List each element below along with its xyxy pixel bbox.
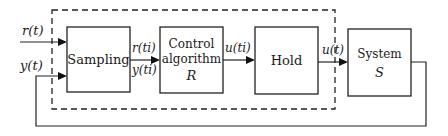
- hold-block: Hold: [255, 27, 318, 94]
- discrete-control-arrowhead: [246, 56, 255, 64]
- sampled-output-label: y(ti): [131, 63, 157, 77]
- continuous-control-arrowhead: [339, 58, 348, 66]
- system-block: System S: [348, 29, 411, 96]
- feedback-arrowhead: [58, 72, 67, 80]
- system-label-symbol: S: [375, 65, 384, 80]
- sampled-reference-label: r(ti): [132, 41, 156, 55]
- block-diagram: Sampling Control algorithm R Hold System…: [0, 0, 448, 136]
- control-label-symbol: R: [186, 68, 197, 83]
- sampling-label: Sampling: [67, 52, 129, 67]
- output-input-label: y(t): [19, 58, 43, 73]
- system-label-line1: System: [357, 47, 402, 61]
- reference-arrowhead: [58, 38, 67, 46]
- hold-label: Hold: [271, 53, 303, 68]
- control-label-line1: Control: [169, 37, 215, 51]
- sampling-block: Sampling: [67, 27, 130, 92]
- control-algorithm-block: Control algorithm R: [160, 27, 223, 93]
- control-label-line2: algorithm: [162, 52, 222, 66]
- continuous-control-label: u(t): [322, 43, 344, 57]
- discrete-control-label: u(ti): [225, 41, 251, 55]
- reference-input-label: r(t): [22, 23, 44, 38]
